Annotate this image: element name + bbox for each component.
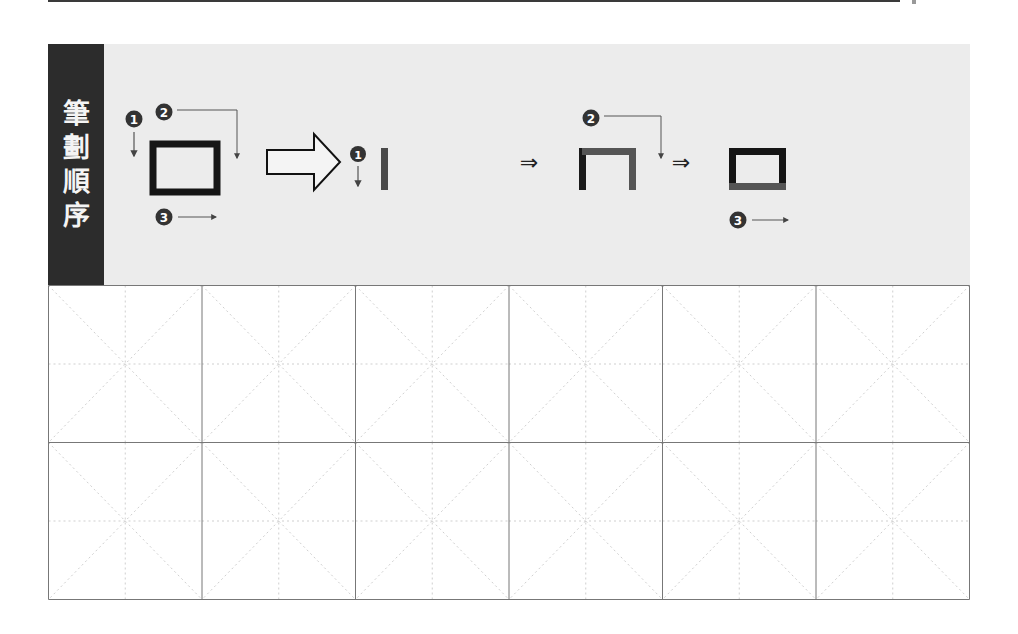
svg-text:1: 1 <box>130 113 138 127</box>
implies-arrow-icon: ⇒ <box>520 150 538 175</box>
kou-square <box>153 144 217 192</box>
step-1-badge-icon: 1 <box>350 146 366 162</box>
step-2-badge-icon: 2 <box>156 104 173 121</box>
label-char-4: 序 <box>63 199 90 233</box>
step-1-diagram: 1 <box>350 146 388 190</box>
step-3-badge-icon: 3 <box>156 209 173 226</box>
full-character-diagram: 1 2 3 <box>126 104 238 226</box>
stroke-order-header: 筆 劃 順 序 1 <box>48 44 970 285</box>
step-3-badge-icon: 3 <box>730 212 747 229</box>
implies-arrow-icon: ⇒ <box>672 150 690 175</box>
top-rule <box>48 0 900 2</box>
step-2-arrow-icon <box>177 110 237 158</box>
step-3-diagram: 3 <box>729 152 788 229</box>
step-1-badge-icon: 1 <box>126 111 143 128</box>
big-right-arrow-icon <box>267 134 340 190</box>
svg-text:2: 2 <box>587 112 595 126</box>
svg-text:3: 3 <box>734 214 742 228</box>
stroke-1-vertical <box>381 148 388 190</box>
svg-text:2: 2 <box>160 106 168 120</box>
top-tick-mark <box>912 0 916 4</box>
label-char-1: 筆 <box>63 97 90 131</box>
stroke-2-current <box>582 152 633 191</box>
svg-text:3: 3 <box>160 211 168 225</box>
label-char-3: 順 <box>63 165 90 199</box>
practice-grid-svg <box>48 285 970 601</box>
stroke-order-label: 筆 劃 順 序 <box>48 44 104 285</box>
practice-grid <box>48 285 970 599</box>
step-2-diagram: 2 <box>579 110 661 191</box>
svg-text:1: 1 <box>354 149 362 162</box>
stroke-order-diagram: 1 2 3 <box>104 44 970 285</box>
step-2-badge-icon: 2 <box>583 110 600 127</box>
label-char-2: 劃 <box>63 131 90 165</box>
